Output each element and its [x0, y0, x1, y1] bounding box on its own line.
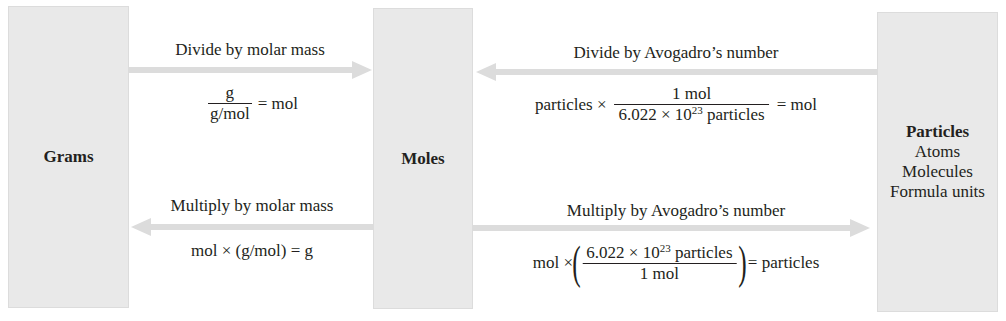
denominator-unit: particles — [703, 105, 765, 124]
result: = particles — [748, 253, 819, 273]
moles-to-particles-label: Multiply by Avogadro’s number — [567, 201, 785, 221]
grams-to-moles-equation: g g/mol = mol — [202, 83, 298, 124]
grams-to-moles-label: Divide by molar mass — [175, 40, 325, 60]
particles-to-moles-equation: particles × 1 mol 6.022 × 1023 particles… — [535, 84, 817, 125]
denominator-base: 6.022 × 10 — [618, 105, 691, 124]
moles-to-particles-equation: mol × ( 6.022 × 1023 particles 1 mol ) =… — [533, 240, 820, 286]
particles-to-moles-label: Divide by Avogadro’s number — [573, 43, 778, 63]
moles-to-grams-label: Multiply by molar mass — [171, 196, 334, 216]
numerator-unit: particles — [671, 243, 733, 262]
arrow-grams-to-moles-icon — [129, 61, 372, 79]
moles-to-grams-equation: mol × (g/mol) = g — [191, 241, 313, 261]
exponent: 23 — [692, 104, 703, 116]
exponent: 23 — [660, 242, 671, 254]
left-paren: ( — [572, 240, 580, 286]
fraction: 1 mol 6.022 × 1023 particles — [614, 84, 768, 125]
fraction: g g/mol — [208, 83, 252, 124]
arrow-moles-to-particles-icon — [473, 219, 870, 237]
arrow-moles-to-grams-icon — [131, 218, 373, 236]
arrow-particles-to-moles-icon — [476, 63, 877, 81]
denominator: 1 mol — [582, 263, 736, 284]
result: = mol — [777, 95, 817, 115]
prefix: particles × — [535, 95, 606, 115]
numerator: 6.022 × 1023 particles — [582, 243, 736, 263]
result: = mol — [258, 94, 298, 114]
numerator-base: 6.022 × 10 — [586, 243, 659, 262]
denominator: g/mol — [208, 103, 252, 124]
denominator: 6.022 × 1023 particles — [614, 104, 768, 125]
numerator: 1 mol — [670, 84, 713, 104]
right-paren: ) — [738, 240, 746, 286]
numerator: g — [224, 83, 237, 103]
arrows-layer — [0, 0, 1006, 321]
fraction: 6.022 × 1023 particles 1 mol — [582, 243, 736, 284]
prefix: mol × — [533, 253, 573, 273]
